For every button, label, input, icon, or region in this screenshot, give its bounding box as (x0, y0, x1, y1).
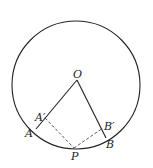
label-B: B (105, 138, 114, 151)
label-B-prime: B′ (103, 120, 115, 133)
label-A: A (24, 127, 33, 140)
label-P: P (70, 150, 79, 163)
label-O: O (73, 68, 82, 81)
geometry-diagram: O A′ A B′ B P (0, 0, 153, 168)
label-A-prime: A′ (34, 111, 46, 124)
segment-OB (77, 80, 106, 138)
